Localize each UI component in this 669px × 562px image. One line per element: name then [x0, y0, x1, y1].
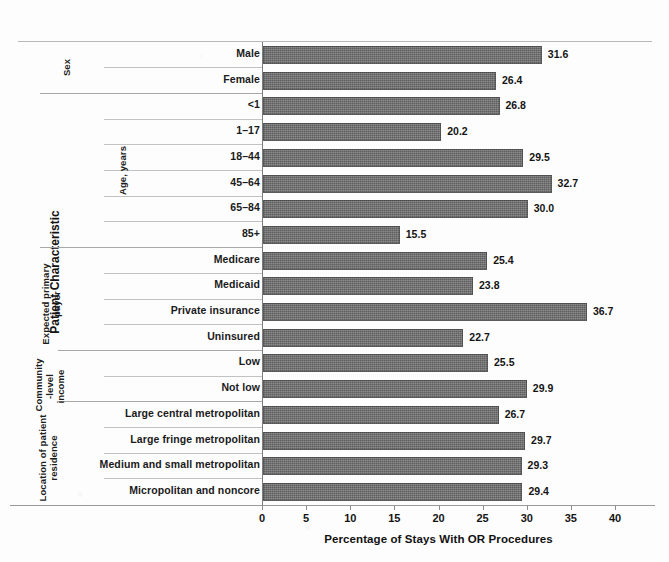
- category-separator-line: [104, 170, 262, 171]
- chart-page: Patient Characteristic Male31.6Female26.…: [0, 0, 669, 562]
- bar-value-label: 26.4: [502, 74, 522, 86]
- category-label: Male: [236, 47, 260, 59]
- category-separator-line: [104, 144, 262, 145]
- group-separator-line: [40, 247, 262, 248]
- bar-value-label: 29.7: [531, 434, 551, 446]
- bar-chart: Patient Characteristic Male31.6Female26.…: [0, 0, 669, 562]
- group-title: Location of patient residence: [37, 408, 59, 508]
- category-label: <1: [248, 98, 260, 110]
- bar-value-label: 29.5: [529, 151, 549, 163]
- category-separator-line: [104, 299, 262, 300]
- bar: [263, 406, 499, 424]
- category-label: Medium and small metropolitan: [100, 458, 260, 470]
- bar-row: Large central metropolitan26.7: [0, 402, 669, 428]
- category-label: Medicare: [214, 253, 260, 265]
- bar: [263, 432, 525, 450]
- category-separator-line: [104, 67, 262, 68]
- bar: [263, 483, 522, 501]
- x-tick-label: 0: [259, 512, 265, 524]
- x-tick-label: 5: [303, 512, 309, 524]
- bar: [263, 457, 522, 475]
- group-title: Sex: [61, 22, 72, 112]
- category-label: Medicaid: [214, 278, 260, 290]
- category-separator-line: [104, 196, 262, 197]
- category-separator-line: [104, 453, 262, 454]
- x-axis-line: [10, 505, 655, 506]
- bar-value-label: 30.0: [534, 202, 554, 214]
- bar-value-label: 31.6: [548, 48, 568, 60]
- category-label: 65–84: [230, 201, 260, 213]
- x-tick-mark: [306, 505, 307, 510]
- x-tick-label: 30: [521, 512, 533, 524]
- category-label: Large central metropolitan: [125, 407, 260, 419]
- x-tick-label: 10: [344, 512, 356, 524]
- bar-row: 45–6432.7: [0, 171, 669, 197]
- category-label: Private insurance: [171, 304, 260, 316]
- bar-row: Private insurance36.7: [0, 299, 669, 325]
- bar-row: <126.8: [0, 93, 669, 119]
- bar: [263, 226, 400, 244]
- x-tick-mark: [615, 505, 616, 510]
- x-axis-title: Percentage of Stays With OR Procedures: [262, 533, 615, 545]
- bar-value-label: 25.4: [493, 254, 513, 266]
- bar: [263, 97, 500, 115]
- bar: [263, 380, 527, 398]
- bar-row: Low25.5: [0, 350, 669, 376]
- x-tick-mark: [571, 505, 572, 510]
- x-tick-mark: [483, 505, 484, 510]
- category-separator-line: [104, 427, 262, 428]
- bar: [263, 329, 463, 347]
- bar-value-label: 29.3: [528, 459, 548, 471]
- category-label: Low: [239, 355, 260, 367]
- bar-row: Medicare25.4: [0, 248, 669, 274]
- x-tick-mark: [394, 505, 395, 510]
- category-separator-line: [104, 273, 262, 274]
- category-separator-line: [104, 119, 262, 120]
- bar-row: Not low29.9: [0, 376, 669, 402]
- category-label: 45–64: [230, 176, 260, 188]
- bar-row: Medium and small metropolitan29.3: [0, 453, 669, 479]
- group-title: Expected primary payer: [39, 252, 61, 357]
- group-title: Community -level income: [33, 362, 66, 412]
- bar-value-label: 26.8: [506, 99, 526, 111]
- group-title: Age, years: [117, 95, 128, 245]
- category-label: Not low: [221, 381, 260, 393]
- x-tick-mark: [350, 505, 351, 510]
- bar: [263, 123, 441, 141]
- group-separator-line: [40, 93, 262, 94]
- bar-row: 65–8430.0: [0, 196, 669, 222]
- bar-row: Large fringe metropolitan29.7: [0, 428, 669, 454]
- bar: [263, 354, 488, 372]
- bar-value-label: 29.4: [528, 485, 548, 497]
- category-label: Large fringe metropolitan: [130, 433, 260, 445]
- x-tick-label: 35: [565, 512, 577, 524]
- bar: [263, 72, 496, 90]
- bar-row: Male31.6: [0, 42, 669, 68]
- category-label: Micropolitan and noncore: [129, 484, 260, 496]
- bar: [263, 149, 523, 167]
- category-label: 85+: [242, 227, 260, 239]
- bar-row: Uninsured22.7: [0, 325, 669, 351]
- bar-row: Medicaid23.8: [0, 273, 669, 299]
- bar-value-label: 26.7: [505, 408, 525, 420]
- group-separator-line: [58, 350, 262, 351]
- bar-value-label: 25.5: [494, 356, 514, 368]
- bar-row: Female26.4: [0, 68, 669, 94]
- x-tick-label: 20: [432, 512, 444, 524]
- category-separator-line: [104, 324, 262, 325]
- x-tick-mark: [439, 505, 440, 510]
- bar-row: Micropolitan and noncore29.4: [0, 479, 669, 505]
- bar-value-label: 29.9: [533, 382, 553, 394]
- bar-value-label: 22.7: [469, 331, 489, 343]
- bar-value-label: 20.2: [447, 125, 467, 137]
- bar: [263, 252, 487, 270]
- x-tick-label: 15: [388, 512, 400, 524]
- bar-value-label: 23.8: [479, 279, 499, 291]
- bar-row: 85+15.5: [0, 222, 669, 248]
- bar: [263, 277, 473, 295]
- category-separator-line: [104, 221, 262, 222]
- category-label: Uninsured: [207, 330, 260, 342]
- bar-value-label: 36.7: [593, 305, 613, 317]
- category-separator-line: [104, 376, 262, 377]
- bar-row: 18–4429.5: [0, 145, 669, 171]
